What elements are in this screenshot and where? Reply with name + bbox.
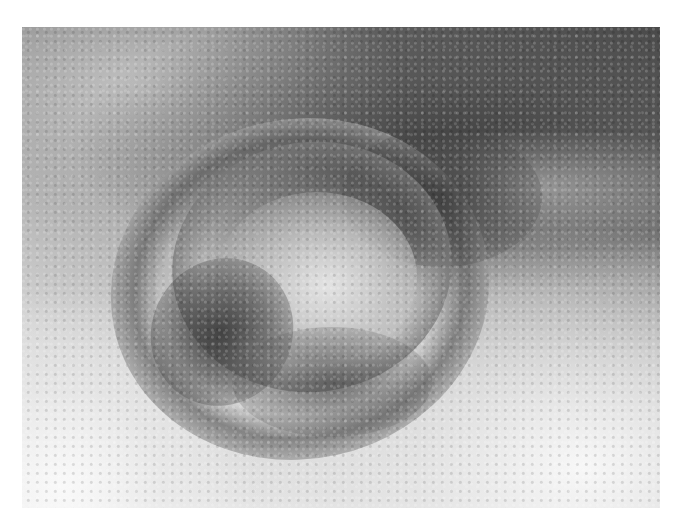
clinical-photograph [22, 27, 660, 508]
granular-texture [22, 27, 660, 508]
page [0, 0, 678, 520]
